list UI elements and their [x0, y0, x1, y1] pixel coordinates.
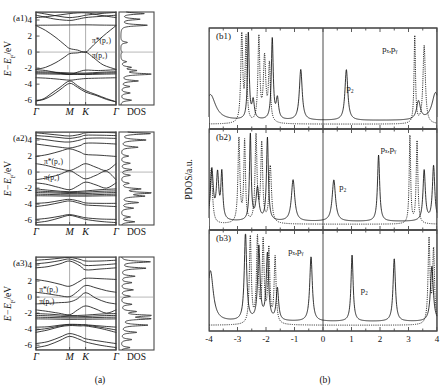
y-tick-label: -2 [25, 308, 33, 318]
caption-b: (b) [319, 375, 330, 386]
b-yaxis-title: PDOS/a.u. [184, 159, 194, 200]
pdos-series-label: p₂ [361, 285, 368, 295]
y-tick-label: -4 [25, 79, 33, 89]
band-curve [36, 259, 116, 266]
figure-root: 420-2-4-6π*(p₂)π(p₂)ΓMKΓDOS(a1)420-2-4-6… [0, 0, 444, 392]
dos-axis-label: DOS [127, 352, 146, 362]
dos-axes-frame [119, 132, 154, 225]
dos-axis-label: DOS [127, 107, 146, 117]
x-tick-label: 4 [435, 334, 440, 344]
pdos-panel-1: pₓ,pᵧp₂(b1) [189, 16, 444, 141]
svg-text:E−EF/eV: E−EF/eV [3, 286, 16, 323]
y-tick-label: 2 [28, 276, 33, 286]
x-tick-label: 1 [349, 334, 354, 344]
k-point-label: K [81, 351, 90, 362]
pdos-panel-tag: (b1) [216, 31, 231, 41]
k-point-label: Γ [112, 351, 119, 362]
pdos-series-label: pₓ,pᵧ [288, 246, 304, 257]
a-yaxis-title: E−EF/eV [3, 161, 16, 198]
pdos-panel-2: pₓ,pᵧp₂(b2) [189, 117, 444, 242]
y-tick-label: 2 [28, 151, 33, 161]
pdos-panel-tag: (b3) [216, 233, 231, 243]
band-curve-label: π(p₂) [92, 51, 108, 60]
band-curve [36, 194, 116, 195]
k-point-label: K [81, 106, 90, 117]
y-tick-label: 4 [28, 260, 33, 270]
y-tick-label: 2 [28, 31, 33, 41]
y-tick-label: -2 [25, 183, 33, 193]
pdos-series-label: p₂ [339, 182, 346, 192]
pdos-series-label: pₓ,pᵧ [381, 144, 397, 155]
band-curve [36, 149, 116, 157]
band-clip-bottom [37, 351, 116, 365]
band-curve-label: π(p₂) [44, 173, 60, 182]
k-point-label: Γ [112, 106, 119, 117]
band-panel-1: 420-2-4-6π*(p₂)π(p₂)ΓMKΓDOS(a1) [13, 0, 154, 120]
y-tick-label: -4 [25, 199, 33, 209]
y-tick-label: 4 [28, 135, 33, 145]
panel-tag: (a2) [13, 133, 28, 143]
pdos-clip-left [189, 218, 209, 343]
band-curve [36, 78, 116, 80]
y-tick-label: 4 [28, 15, 33, 25]
band-curve-label: π*(p₂) [92, 36, 111, 45]
y-tick-label: -4 [25, 324, 33, 334]
band-clip-bottom [37, 226, 116, 240]
band-panel-3: 420-2-4-6π*(p₂)π(p₂)ΓMKΓDOS(a3) [13, 243, 154, 365]
band-clip-top [37, 243, 116, 257]
pdos-series-label: pₓ,pᵧ [382, 44, 398, 55]
x-tick-label: -1 [291, 334, 299, 344]
pdos-panel-tag: (b2) [216, 132, 231, 142]
k-point-label: M [64, 351, 74, 362]
band-curve [36, 317, 116, 318]
dos-curve [121, 12, 151, 105]
pdos-axis-title: PDOS/a.u. [184, 159, 194, 200]
y-tick-label: -6 [25, 215, 33, 225]
band-curve-label: π(p₂) [39, 297, 55, 306]
pdos-clip-right [438, 218, 444, 343]
x-tick-label: -2 [262, 334, 270, 344]
panel-tag: (a3) [13, 258, 28, 268]
y-tick-label: 0 [28, 47, 33, 57]
dos-curve [122, 132, 152, 225]
a-yaxis-title: E−EF/eV [3, 41, 16, 78]
band-curve [36, 182, 116, 190]
a-yaxis-title: E−EF/eV [3, 286, 16, 323]
panel-tag: (a1) [13, 13, 28, 23]
caption-a: (a) [95, 375, 106, 386]
band-curve-label: π*(p₂) [44, 157, 63, 166]
y-tick-label: 0 [28, 167, 33, 177]
band-curve [36, 138, 116, 142]
pdos-series-label: p₂ [346, 83, 353, 93]
svg-text:E−EF/eV: E−EF/eV [3, 41, 16, 78]
k-point-label: Γ [112, 226, 119, 237]
band-curve [36, 143, 116, 148]
y-tick-label: 0 [28, 292, 33, 302]
dos-curve [122, 257, 152, 350]
y-tick-label: -2 [25, 63, 33, 73]
band-clip-top [37, 118, 116, 132]
k-point-label: Γ [32, 351, 39, 362]
x-tick-label: 2 [378, 334, 383, 344]
x-tick-label: 0 [321, 334, 326, 344]
x-tick-label: 3 [406, 334, 411, 344]
y-tick-label: -6 [25, 95, 33, 105]
k-point-label: K [81, 226, 90, 237]
band-curve-label: π*(p₂) [39, 285, 58, 294]
band-clip-top [37, 0, 116, 12]
figure-canvas: 420-2-4-6π*(p₂)π(p₂)ΓMKΓDOS(a1)420-2-4-6… [0, 0, 444, 392]
x-tick-label: -3 [234, 334, 242, 344]
k-point-label: M [64, 106, 74, 117]
k-point-label: Γ [32, 106, 39, 117]
x-tick-label: -4 [205, 334, 213, 344]
band-curve [36, 334, 116, 344]
band-curve [36, 199, 116, 203]
y-tick-label: -6 [25, 340, 33, 350]
band-panel-2: 420-2-4-6π*(p₂)π(p₂)ΓMKΓDOS(a2) [13, 118, 154, 240]
dos-axis-label: DOS [127, 227, 146, 237]
k-point-label: M [64, 226, 74, 237]
band-curve [36, 83, 116, 101]
band-clip-bottom [37, 106, 116, 120]
svg-text:E−EF/eV: E−EF/eV [3, 161, 16, 198]
k-point-label: Γ [32, 226, 39, 237]
